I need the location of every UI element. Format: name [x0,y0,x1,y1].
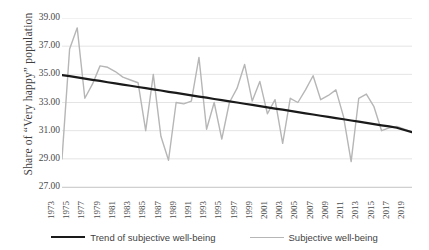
x-axis-tick-label: 1973 [46,193,56,227]
x-axis-tick-label: 2011 [335,193,345,227]
x-axis-tick-label: 2009 [320,193,330,227]
legend-item[interactable]: Trend of subjective well-being [51,232,215,243]
y-axis-tick-label: 35.00 [20,69,60,79]
x-axis-tick-label: 2007 [305,193,315,227]
y-axis-tick-label: 39.00 [20,13,60,23]
legend-label: Trend of subjective well-being [90,232,215,243]
x-axis-line [62,187,412,188]
x-axis-tick-label: 2001 [259,193,269,227]
plot-area [62,18,412,187]
x-axis-tick-label: 1977 [76,193,86,227]
y-axis-tick-label: 33.00 [20,98,60,108]
x-axis-tick-label: 1993 [198,193,208,227]
y-axis-tick-label: 31.00 [20,126,60,136]
x-axis-tick-label: 1997 [229,193,239,227]
x-axis-tick-label: 2015 [366,193,376,227]
y-axis-tick-label: 29.00 [20,154,60,164]
x-axis-tick-label: 1995 [213,193,223,227]
series-lines [62,28,412,162]
legend-label: Subjective well-being [289,232,378,243]
x-axis-tick-label: 1985 [137,193,147,227]
y-axis-tick-label: 37.00 [20,41,60,51]
series-line [62,75,412,132]
legend-swatch-icon [51,236,85,238]
chart-svg [62,18,412,187]
x-axis-tick-label: 1975 [61,193,71,227]
x-axis-tick-label: 1999 [244,193,254,227]
x-axis-tick-label: 1979 [92,193,102,227]
x-axis-tick-label: 1987 [153,193,163,227]
x-axis-tick-label: 2005 [289,193,299,227]
x-axis-tick-labels: 1973197519771979198119831985198719891991… [62,190,412,226]
x-axis-tick-label: 2017 [381,193,391,227]
x-axis-tick-label: 2019 [396,193,406,227]
x-axis-tick-label: 2013 [350,193,360,227]
series-line [62,28,412,162]
y-axis-tick-labels: 39.0037.0035.0033.0031.0029.0027.00 [16,0,60,195]
chart-legend: Trend of subjective well-beingSubjective… [0,228,429,246]
legend-swatch-icon [250,237,284,238]
x-axis-tick-label: 1983 [122,193,132,227]
x-axis-tick-label: 1989 [168,193,178,227]
x-axis-tick-label: 1981 [107,193,117,227]
chart-container: Share of “Very happy” population 39.0037… [0,0,429,250]
legend-item[interactable]: Subjective well-being [250,232,378,243]
x-axis-tick-label: 2003 [274,193,284,227]
x-axis-tick-label: 1991 [183,193,193,227]
y-axis-tick-label: 27.00 [20,182,60,192]
